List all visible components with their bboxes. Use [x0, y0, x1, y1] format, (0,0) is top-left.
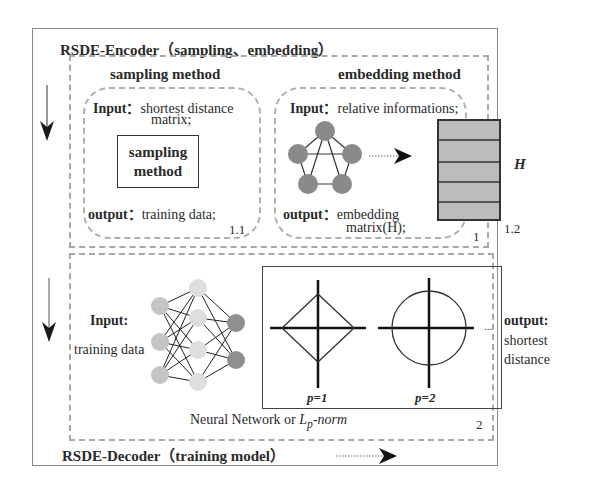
neural-network-icon [148, 278, 248, 398]
embedding-output-line2: matrix(H); [346, 220, 406, 236]
dotted-arrow-icon [368, 146, 418, 166]
ellipsis: ... [484, 320, 492, 332]
down-arrow-icon [38, 85, 58, 145]
decoder-caption: Neural Network or Lp-norm [190, 412, 347, 431]
p1-label: p=1 [307, 390, 327, 406]
input-label: Input： [290, 101, 337, 116]
sampling-output: output：training data; [88, 203, 216, 223]
decoder-output-label: output: [504, 313, 548, 329]
graph-icon [285, 118, 365, 198]
output-text: training data; [142, 207, 216, 222]
section-number-1: 1 [473, 229, 480, 245]
output-label: output： [88, 207, 142, 222]
subsection-number-1-2: 1.2 [504, 221, 520, 237]
caption-math: L [299, 412, 307, 427]
matrix-label: H [514, 156, 526, 173]
p2-label: p=2 [415, 390, 435, 406]
output-label: output： [283, 207, 337, 222]
decoder-input-label: Input: [90, 313, 128, 329]
decoder-title: RSDE-Decoder（training model） [62, 444, 285, 465]
lp-norm-shapes [268, 278, 498, 398]
decoder-output-line1: shortest [504, 333, 548, 349]
sampling-heading: sampling method [110, 66, 220, 83]
caption-prefix: Neural Network or [190, 412, 299, 427]
p2-circle-icon [378, 278, 474, 388]
box-line-1: sampling [129, 143, 187, 162]
embedding-input: Input：relative informations; [290, 97, 458, 117]
decoder-input-text: training data [74, 342, 144, 358]
decoder-output-line2: distance [504, 352, 550, 368]
sampling-input-line2: matrix; [151, 112, 191, 128]
sampling-method-block: sampling method [117, 135, 199, 188]
down-arrow-icon [40, 278, 60, 348]
embedding-heading: embedding method [338, 66, 461, 83]
dotted-arrow-right-icon [335, 446, 405, 466]
input-text: relative informations; [337, 101, 458, 116]
section-number-2: 2 [476, 417, 483, 433]
caption-suffix: -norm [313, 412, 347, 427]
box-line-2: method [134, 162, 182, 181]
p1-diamond-icon [270, 280, 366, 388]
subsection-number-1-1: 1.1 [229, 222, 245, 238]
embedding-matrix [437, 119, 501, 221]
input-label: Input： [93, 101, 140, 116]
